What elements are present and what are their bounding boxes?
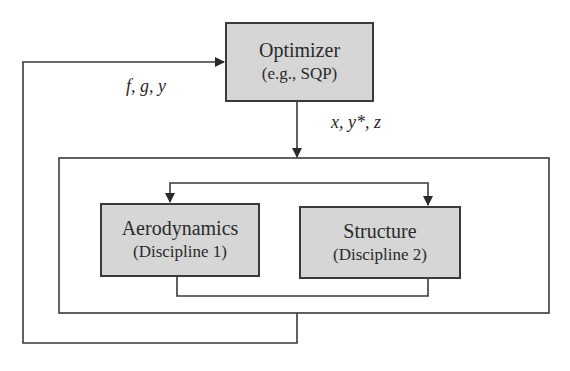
coupling-bottom: [177, 277, 428, 296]
aerodynamics-subtitle: (Discipline 1): [133, 240, 227, 264]
optimizer-box: Optimizer (e.g., SQP): [225, 22, 374, 102]
feedback-label: f, g, y: [126, 76, 166, 97]
optimizer-title: Optimizer: [259, 38, 340, 62]
optimizer-subtitle: (e.g., SQP): [262, 62, 338, 86]
structure-title: Structure: [343, 219, 416, 243]
structure-subtitle: (Discipline 2): [333, 243, 427, 267]
design-vars-label: x, y*, z: [331, 112, 381, 133]
coupling-top-left: [170, 183, 300, 202]
structure-box: Structure (Discipline 2): [299, 206, 461, 279]
aerodynamics-box: Aerodynamics (Discipline 1): [100, 203, 260, 277]
coupling-top-right: [300, 183, 428, 205]
aerodynamics-title: Aerodynamics: [122, 216, 239, 240]
